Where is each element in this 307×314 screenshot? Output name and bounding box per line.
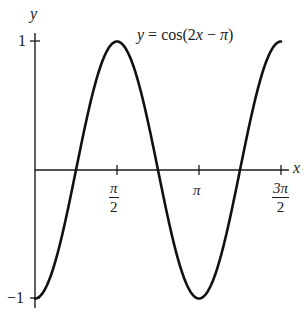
x-tick-label-3pi-half: 3π 2	[272, 181, 289, 215]
y-axis-label: y	[30, 6, 37, 22]
x-tick-label-pi: π	[193, 183, 201, 198]
equation-pi: π	[220, 26, 228, 43]
equation-label: y = cos(2x − π)	[137, 27, 233, 43]
y-tick-label-neg1: −1	[7, 290, 24, 306]
x-tick-label-pi-half-den: 2	[110, 198, 118, 215]
equation-x: x	[196, 26, 203, 43]
x-tick-label-pi-half-num: π	[109, 181, 119, 197]
x-tick-label-3pi-half-num: 3π	[272, 181, 289, 197]
cosine-chart	[0, 0, 307, 314]
x-tick-label-pi-half: π 2	[109, 181, 119, 215]
equation-cos: = cos(2	[144, 26, 196, 43]
x-axis-label: x	[293, 160, 300, 176]
x-tick-label-3pi-half-den: 2	[277, 198, 285, 215]
equation-close: )	[228, 26, 233, 43]
y-tick-label-1: 1	[18, 33, 26, 49]
equation-minus: −	[203, 26, 220, 43]
